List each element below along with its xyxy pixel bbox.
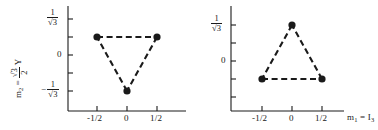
left-y-tick-label-bottom-den: √3	[47, 90, 58, 99]
left-triangle-edge-left	[97, 37, 127, 91]
left-y-tick-label-top: 1 √3	[47, 8, 58, 27]
left-y-axis-title: m2 = √3 2 Y	[10, 59, 29, 98]
left-y-tick-label-top-den: √3	[47, 18, 58, 27]
left-y-tick-label-bottom: − 1 √3	[41, 80, 59, 99]
right-x-tick-label-neg-half: -1/2	[252, 114, 267, 123]
right-y-tick-label-zero: 0	[221, 56, 226, 65]
left-y-axis-title-var-sub: 2	[17, 88, 24, 91]
left-y-tick-label-top-fraction: 1 √3	[47, 8, 58, 27]
left-data-point	[153, 33, 160, 40]
left-panel	[68, 6, 186, 111]
right-x-tick-label-pos-half: 1/2	[315, 114, 327, 123]
right-panel	[231, 6, 344, 111]
left-x-tick-label-neg-half: -1/2	[87, 114, 102, 123]
weight-diagram-figure: m2 = √3 2 Y 1 √3 0 − 1 √3 -1/2 0 1/2 1 √…	[0, 0, 378, 130]
left-y-tick-label-bottom-minus: −	[41, 85, 46, 94]
right-x-axis-title-equals: =	[360, 112, 365, 122]
left-y-axis-title-var: m	[13, 91, 23, 98]
left-x-tick-label-zero: 0	[124, 114, 129, 123]
right-x-axis-title-var-sub: 1	[354, 116, 357, 123]
left-y-axis-title-trailing: Y	[13, 59, 23, 66]
left-triangle-edge-right	[127, 37, 157, 91]
right-x-tick-label-zero: 0	[289, 114, 294, 123]
right-data-point	[318, 75, 325, 82]
right-y-tick-label-top-den: √3	[211, 24, 222, 33]
left-y-axis-title-equals: =	[13, 80, 23, 85]
left-y-tick-label-zero: 0	[57, 50, 62, 59]
right-triangle-edge-left	[262, 25, 292, 79]
left-y-axis-title-frac-den: 2	[20, 67, 29, 78]
left-x-tick-label-pos-half: 1/2	[150, 114, 162, 123]
right-data-point	[258, 75, 265, 82]
left-y-tick-label-bottom-fraction: 1 √3	[47, 80, 58, 99]
left-data-point	[123, 87, 130, 94]
right-x-axis-title-rhs-sub: 3	[371, 116, 374, 123]
left-y-axis-title-fraction: √3 2	[10, 67, 29, 78]
right-y-tick-label-top: 1 √3	[211, 14, 222, 33]
right-triangle-edge-right	[292, 25, 322, 79]
right-y-tick-label-top-fraction: 1 √3	[211, 14, 222, 33]
left-data-point	[93, 33, 100, 40]
right-data-point	[288, 21, 295, 28]
right-x-axis-title: m1 = I3	[347, 113, 375, 122]
